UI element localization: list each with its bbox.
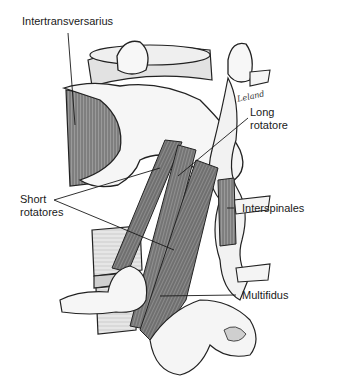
label-long-rotatore-line2: rotatore	[250, 119, 288, 132]
label-short-rotatores: Short rotatores	[20, 193, 63, 219]
label-long-rotatore-line1: Long	[250, 106, 288, 119]
label-interspinales: Interspinales	[242, 202, 304, 215]
label-multifidus: Multifidus	[242, 289, 288, 302]
interspinales-muscle	[218, 178, 236, 246]
label-short-rotatores-line1: Short	[20, 193, 63, 206]
label-intertransversarius: Intertransversarius	[22, 15, 113, 28]
label-long-rotatore: Long rotatore	[250, 106, 288, 132]
label-short-rotatores-line2: rotatores	[20, 206, 63, 219]
articular-process-right	[228, 43, 252, 82]
